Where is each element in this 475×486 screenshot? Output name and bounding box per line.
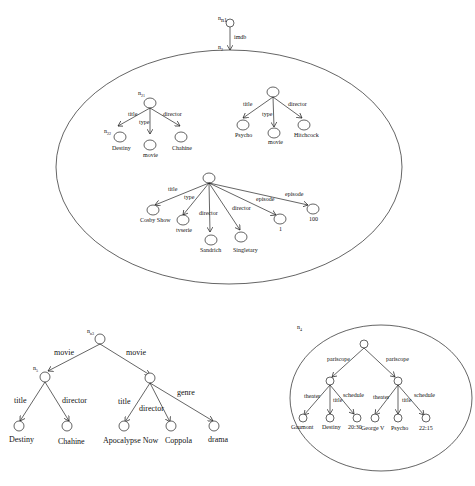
leaf-label: Chahine (58, 437, 85, 446)
edge-label: title (243, 101, 253, 107)
edge-label: director (139, 404, 164, 413)
edge-label: title (402, 397, 412, 403)
edge-label: type (262, 111, 273, 117)
edge-label-imdb: imdb (234, 34, 246, 40)
subtree-cosby: title type director director episode epi… (140, 173, 319, 253)
label-n22: n22 (104, 128, 111, 136)
leaf-label: 20:30 (348, 424, 362, 430)
subtree-n21: n21 title type director n22 Destiny movi… (104, 90, 192, 158)
edge-label: genre (177, 388, 195, 397)
leaf-label: Chahine (172, 145, 192, 151)
leaf-label: 1 (279, 226, 282, 232)
edge-label: director (288, 101, 307, 107)
node-n22 (114, 132, 126, 142)
leaf-label: Destiny (112, 145, 131, 151)
leaf-label: Coppola (165, 436, 193, 445)
edge-label: title (168, 186, 178, 192)
edge-label: director (62, 396, 87, 405)
edge-label: pariscope (327, 356, 350, 362)
leaf-label: George V (361, 425, 385, 431)
edge-label: director (232, 205, 251, 211)
edge-label: title (128, 111, 138, 117)
leaf-label: movie (268, 139, 283, 145)
leaf-label: 22:15 (419, 425, 433, 431)
label-n5: n5 (33, 365, 38, 373)
container-n2 (56, 50, 402, 284)
leaf-label: Destiny (322, 424, 341, 430)
leaf-label: Cosby Show (140, 217, 171, 223)
leaf-label: Psycho (391, 425, 408, 431)
edge-label: movie (126, 348, 146, 357)
edge-label: schedule (343, 392, 364, 398)
node-n5 (40, 372, 50, 382)
leaf-label: Singletary (233, 247, 258, 253)
diagram-canvas: nn1 imdb n2 n21 title type director n22 … (0, 0, 475, 486)
leaf-label: Apocalypse Now (103, 436, 159, 445)
leaf-label: Hitchcock (294, 132, 319, 138)
edge-label: pariscope (386, 356, 409, 362)
leaf-label: 100 (309, 216, 318, 222)
leaf-label: Destiny (9, 435, 34, 444)
leaf-label: movie (143, 152, 158, 158)
edge-label: episode (256, 196, 275, 202)
edge-label: type (184, 194, 195, 200)
edge-label: title (118, 397, 131, 406)
top-graph: nn1 imdb n2 n21 title type director n22 … (56, 15, 402, 284)
leaf-label: Gaumont (291, 424, 314, 430)
edge-label: schedule (414, 392, 435, 398)
edge-label: director (199, 210, 218, 216)
leaf-label: Sandrich (200, 247, 221, 253)
bottom-right-graph: n4 pariscope pariscope theater title sch… (290, 324, 472, 471)
edge-label: title (14, 396, 27, 405)
edge-label: director (163, 111, 182, 117)
leaf-label: Psycho (235, 132, 252, 138)
subtree-psycho: title type director Psycho movie Hitchco… (235, 87, 319, 145)
leaf-label: tvserie (176, 227, 192, 233)
label-n4: n4 (297, 324, 302, 332)
label-n3: nn3 (87, 328, 94, 336)
edge-label: title (333, 397, 343, 403)
node-n3 (95, 334, 105, 344)
edge-label: movie (54, 348, 74, 357)
tree-diagram: nn1 imdb n2 n21 title type director n22 … (0, 0, 475, 486)
label-n21: n21 (138, 90, 145, 98)
node-n21 (144, 98, 156, 108)
edge-label: theater (373, 394, 389, 400)
label-n2: n2 (218, 44, 223, 52)
edge-label: theater (304, 393, 320, 399)
bottom-left-tree: nn3 movie movie n5 title director Destin… (9, 328, 228, 446)
node-n1 (226, 19, 234, 27)
label-n1: nn1 (218, 15, 227, 23)
edge-label: episode (285, 191, 304, 197)
edge-label: type (139, 119, 150, 125)
leaf-label: drama (208, 435, 228, 444)
